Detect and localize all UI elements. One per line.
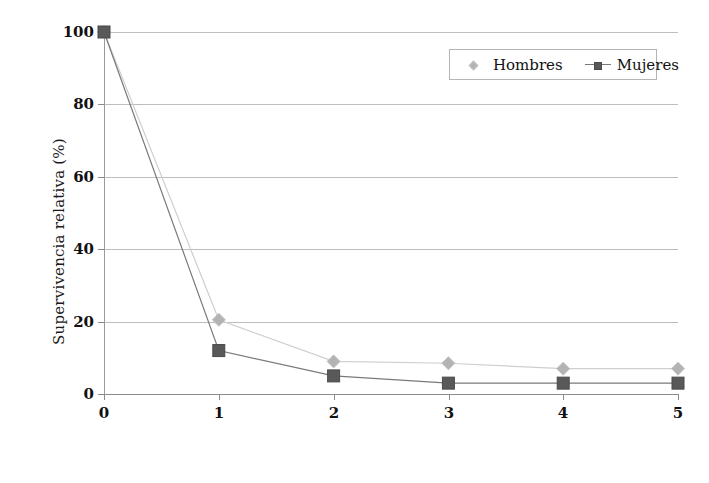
x-tick-mark-2 [334, 394, 335, 400]
y-tick-label-20: 20 [48, 315, 94, 330]
x-tick-label-4: 4 [548, 406, 578, 421]
x-tick-mark-5 [678, 394, 679, 400]
legend-marker-square-icon [585, 58, 611, 72]
y-tick-label-100: 100 [48, 25, 94, 40]
x-tick-mark-1 [219, 394, 220, 400]
y-tick-label-60: 60 [48, 170, 94, 185]
y-axis-line [104, 30, 105, 396]
chart-figure: Supervivencia relativa (%) 100 80 60 40 … [0, 0, 709, 483]
gridline-100 [104, 32, 678, 33]
x-tick-label-2: 2 [319, 406, 349, 421]
x-tick-mark-3 [449, 394, 450, 400]
y-tick-mark-40 [98, 249, 104, 250]
gridline-60 [104, 177, 678, 178]
y-tick-label-0: 0 [48, 387, 94, 402]
plot-area [104, 32, 678, 394]
legend-entry-hombres: Hombres [461, 56, 563, 74]
x-tick-mark-0 [104, 394, 105, 400]
y-tick-label-40: 40 [48, 242, 94, 257]
legend-label-hombres: Hombres [493, 56, 563, 74]
y-tick-mark-20 [98, 322, 104, 323]
y-tick-mark-80 [98, 104, 104, 105]
x-tick-label-5: 5 [663, 406, 693, 421]
y-tick-label-80: 80 [48, 97, 94, 112]
legend-label-mujeres: Mujeres [617, 56, 679, 74]
legend: Hombres Mujeres [449, 49, 657, 80]
gridline-80 [104, 104, 678, 105]
x-tick-label-0: 0 [89, 406, 119, 421]
y-tick-mark-100 [98, 32, 104, 33]
x-tick-label-1: 1 [204, 406, 234, 421]
x-tick-mark-4 [563, 394, 564, 400]
x-tick-label-3: 3 [434, 406, 464, 421]
gridline-40 [104, 249, 678, 250]
gridline-20 [104, 322, 678, 323]
y-tick-mark-60 [98, 177, 104, 178]
x-axis-line [103, 394, 679, 395]
legend-marker-diamond-icon [461, 58, 487, 72]
legend-entry-mujeres: Mujeres [585, 56, 679, 74]
